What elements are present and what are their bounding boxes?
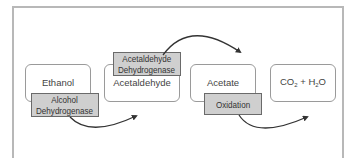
arrow-ethanol-to-acetaldehyde <box>70 116 136 127</box>
arrows-layer <box>0 0 359 158</box>
arrow-acetaldehyde-to-acetate <box>163 36 240 55</box>
arrow-acetate-to-co2 <box>239 115 307 128</box>
